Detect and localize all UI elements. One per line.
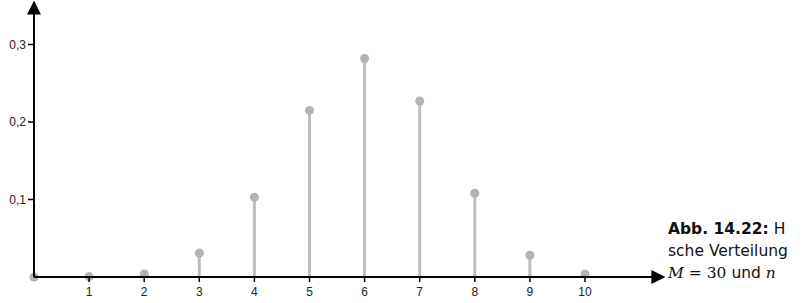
- x-tick-label: 5: [306, 285, 313, 299]
- x-tick-label: 7: [416, 285, 423, 299]
- data-stems: [30, 54, 590, 282]
- y-ticks: 0,10,20,3: [9, 38, 34, 207]
- caption-math-n: n: [766, 264, 776, 282]
- x-tick-label: 1: [86, 285, 93, 299]
- stem-point: [470, 189, 479, 277]
- x-tick-label: 10: [578, 285, 592, 299]
- x-ticks: 12345678910: [86, 277, 592, 299]
- x-tick-label: 8: [471, 285, 478, 299]
- x-tick-label: 9: [527, 285, 534, 299]
- y-tick-label: 0,1: [9, 193, 26, 207]
- y-tick-label: 0,2: [9, 115, 26, 129]
- x-tick-label: 3: [196, 285, 203, 299]
- caption-math-m: M: [668, 264, 684, 282]
- figure-caption: Abb. 14.22: H sche Verteilung M = 30 und…: [668, 218, 812, 284]
- stem-point: [525, 251, 534, 277]
- x-tick-label: 4: [251, 285, 258, 299]
- caption-math-eq: = 30: [684, 264, 727, 282]
- x-tick-label: 2: [141, 285, 148, 299]
- y-tick-label: 0,3: [9, 38, 26, 52]
- stem-point: [195, 248, 204, 277]
- caption-label: Abb. 14.22:: [668, 220, 769, 238]
- stem-point: [250, 193, 259, 277]
- caption-und: und: [726, 264, 765, 282]
- stem-point: [360, 54, 369, 277]
- caption-line2: sche Verteilung: [668, 240, 812, 262]
- stem-point: [415, 97, 424, 277]
- caption-line1: H: [769, 220, 786, 238]
- stem-point: [305, 106, 314, 277]
- x-tick-label: 6: [361, 285, 368, 299]
